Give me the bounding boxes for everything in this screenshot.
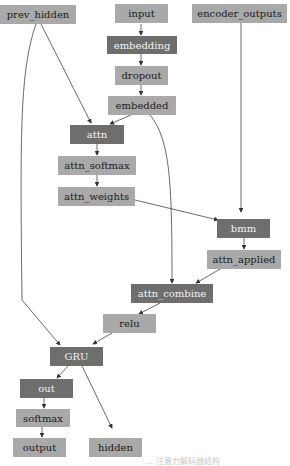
edge-applied-combine [196,268,222,283]
edge-prev-hidden-attn [41,24,91,123]
node-attn-softmax: attn_softmax [58,156,136,175]
node-softmax: softmax [16,409,70,427]
node-encoder-outputs: encoder_outputs [192,4,287,23]
figure-caption: … 注意力解码器结构 [145,455,220,466]
node-output: output [13,438,66,457]
node-gru: GRU [50,347,103,366]
node-attn-weights: attn_weights [58,187,135,206]
node-attn: attn [70,125,124,144]
edge-gru-out [57,366,68,378]
node-relu: relu [103,314,156,333]
node-bmm: bmm [217,219,270,238]
node-hidden: hidden [89,438,142,457]
edge-combine-relu [139,303,160,314]
node-embedding: embedding [107,36,177,54]
node-out: out [20,379,73,398]
edge-prev-hidden-gru [21,24,60,345]
node-prev-hidden: prev_hidden [0,5,76,24]
edge-weights-bmm [135,200,218,220]
edge-embedded-attn [110,115,131,124]
node-attn-combine: attn_combine [131,284,213,303]
node-input: input [115,4,168,23]
node-embedded: embedded [108,96,176,115]
edge-relu-gru [93,333,112,344]
edge-embedded-combine [150,115,172,283]
node-dropout: dropout [115,66,168,85]
node-attn-applied: attn_applied [207,250,281,269]
edge-gru-hidden [82,366,112,428]
